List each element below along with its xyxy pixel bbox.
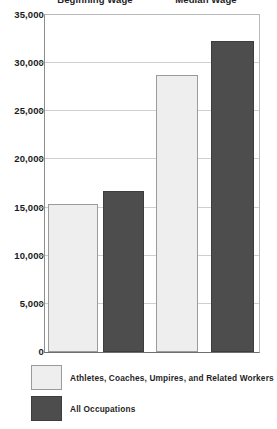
legend-label: Athletes, Coaches, Umpires, and Related … (70, 373, 274, 383)
bar-dark-4 (211, 41, 254, 352)
bar-light-3 (156, 75, 198, 352)
bar-light-1 (48, 204, 98, 352)
plot-area (44, 14, 260, 353)
group-header-median-wage: Median Wage (150, 0, 262, 5)
legend-swatch-light (31, 365, 62, 390)
y-axis-tick-label: 35,000 (4, 9, 44, 20)
y-axis-tick-label: 0 (4, 346, 44, 357)
legend-label: All Occupations (70, 404, 135, 414)
group-header-beginning-wage: Beginning Wage (40, 0, 150, 5)
legend-swatch-dark (31, 396, 62, 421)
bar-dark-2 (103, 191, 144, 352)
